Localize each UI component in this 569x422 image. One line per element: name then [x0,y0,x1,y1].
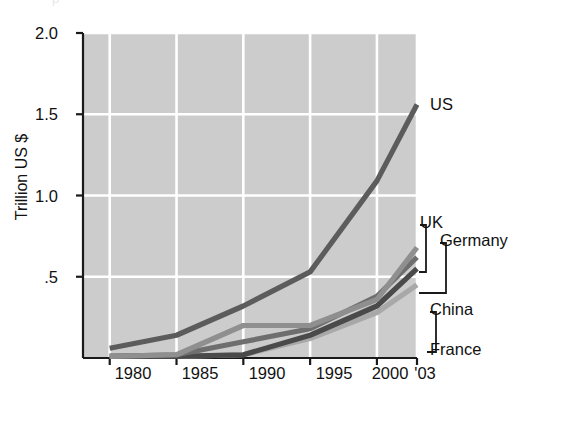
y-tick-label-2-0: 2.0 [14,24,58,43]
y-tick-label-0-5: .5 [14,268,58,287]
series-label-france: France [430,340,481,359]
line-chart-canvas [0,0,569,422]
series-label-china: China [430,300,473,319]
series-label-uk: UK [420,213,443,232]
x-tick-label-1995: 1995 [316,364,353,383]
x-tick-label-1980: 1980 [115,364,152,383]
x-tick-label-2003: '03 [414,364,436,383]
series-label-germany: Germany [440,231,508,250]
series-label-us: US [430,95,453,114]
x-tick-label-2000: 2000 [372,364,409,383]
x-tick-label-1990: 1990 [249,364,286,383]
chart-figure: p 2.0 1.5 1.0 .5 Trillion US $ 1980 1985… [0,0,569,422]
leader-line-germany [419,243,446,293]
x-tick-label-1985: 1985 [182,364,219,383]
leader-line-uk [419,225,426,272]
y-axis-title: Trillion US $ [13,107,31,247]
